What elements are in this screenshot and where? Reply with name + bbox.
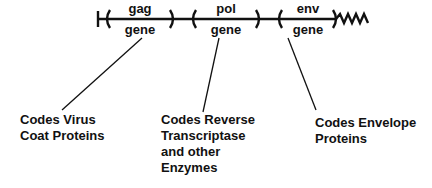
pol-name: pol [206,1,246,16]
env-caption: Codes Envelope Proteins [315,115,416,147]
gag-name: gag [120,1,160,16]
env-leader-line [288,38,316,110]
env-gene-label: gene [288,22,328,37]
pol-caption: Codes Reverse Transcriptase and other En… [161,112,255,176]
env-name: env [288,1,328,16]
pol-leader-line [203,38,219,112]
gag-gene-label: gene [120,22,160,37]
gag-leader-line [62,38,142,110]
gag-caption: Codes Virus Coat Proteins [20,112,105,144]
genome-tail-zigzag [336,14,368,23]
pol-gene-label: gene [206,22,246,37]
